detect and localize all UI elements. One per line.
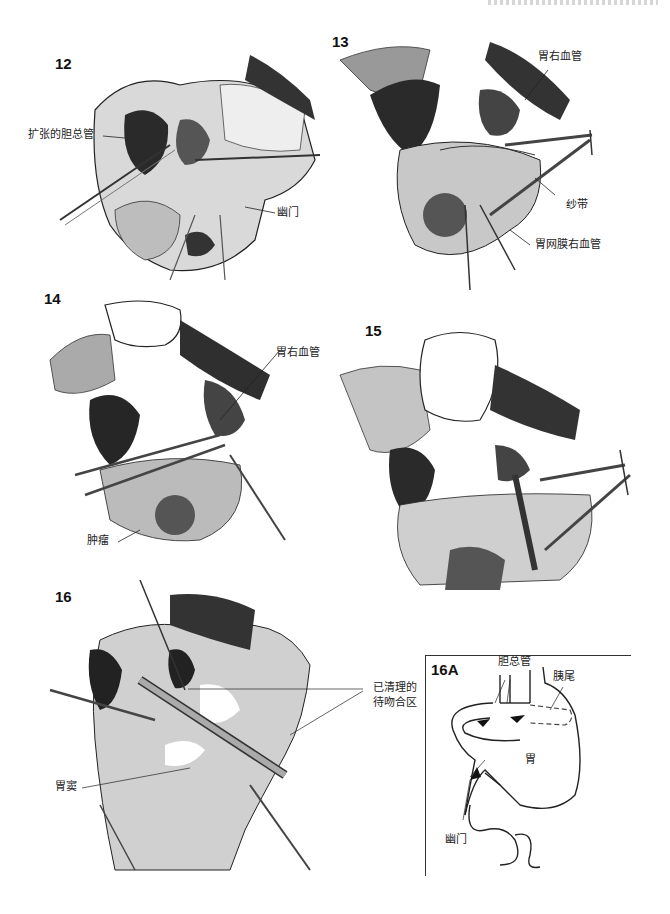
surgical-illustration-15 — [330, 300, 660, 590]
figure-12: 12 扩张的胆总管 幽门 — [20, 40, 320, 280]
surgical-illustration-14 — [40, 290, 340, 550]
label-cleaned-anastomosis-area-line2: 待吻合区 — [373, 696, 417, 710]
surgical-illustration-16 — [40, 570, 420, 910]
running-header-fragment — [488, 0, 658, 5]
figure-16a: 16A 胆总管 胰尾 胃 幽门 — [425, 655, 630, 875]
label-pylorus: 幽门 — [445, 833, 467, 847]
label-common-bile-duct: 胆总管 — [498, 655, 531, 669]
label-tape: 纱带 — [566, 198, 588, 212]
figure-number: 15 — [365, 322, 382, 339]
figure-13: 13 胃右血管 纱带 胃网膜右血管 — [330, 30, 650, 290]
figure-16: 16 已清理的 待吻合区 胃窦 — [40, 570, 420, 910]
label-tumor: 肿瘤 — [87, 534, 109, 548]
label-right-gastric-vessels: 胃右血管 — [538, 50, 582, 64]
figure-number: 12 — [55, 55, 72, 72]
surgical-illustration-13 — [330, 30, 650, 290]
figure-number: 16 — [55, 588, 72, 605]
label-dilated-common-bile-duct: 扩张的胆总管 — [28, 128, 94, 142]
label-pancreatic-tail: 胰尾 — [553, 670, 575, 684]
figure-number: 14 — [44, 290, 61, 307]
surgical-illustration-12 — [20, 40, 320, 280]
figure-number: 16A — [431, 661, 459, 678]
label-right-gastroepiploic-vessels: 胃网膜右血管 — [535, 238, 601, 252]
label-right-gastric-vessels: 胃右血管 — [276, 346, 320, 360]
figure-14: 14 胃右血管 肿瘤 — [40, 290, 340, 550]
label-gastric-antrum: 胃窦 — [55, 780, 77, 794]
label-cleaned-anastomosis-area-line1: 已清理的 — [373, 681, 417, 695]
label-stomach: 胃 — [525, 753, 536, 767]
label-pylorus: 幽门 — [277, 206, 299, 220]
figure-number: 13 — [332, 33, 349, 50]
figure-15: 15 — [330, 300, 660, 590]
